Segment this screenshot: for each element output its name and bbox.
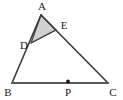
vertex-label-c: C	[109, 86, 116, 98]
vertex-label-d: D	[20, 39, 28, 51]
geometry-diagram: A E D B P C	[0, 0, 123, 100]
vertex-label-a: A	[38, 0, 46, 12]
vertex-label-p: P	[65, 86, 71, 98]
geometry-canvas: A E D B P C	[0, 0, 123, 100]
diagram-background	[0, 0, 123, 100]
vertex-label-e: E	[61, 19, 68, 31]
point-marker-p	[66, 80, 70, 84]
vertex-label-b: B	[4, 86, 11, 98]
